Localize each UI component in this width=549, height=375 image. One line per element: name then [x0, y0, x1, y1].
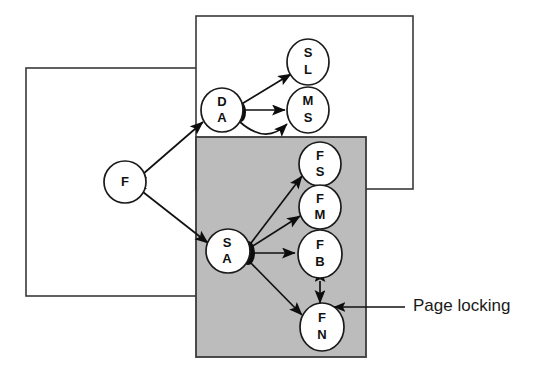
node-sa-label-line-2: A [222, 251, 232, 266]
node-sl-label-line-2: L [304, 62, 312, 77]
node-fb-label-line-2: B [315, 254, 324, 269]
node-fn-label-line-1: F [318, 310, 326, 325]
node-fm-label-line-2: M [315, 207, 326, 222]
layered-architecture-diagram: F D A S L M S S A F S F [0, 0, 549, 375]
node-sa[interactable]: S A [206, 229, 250, 273]
node-sl-label-line-1: S [304, 45, 313, 60]
diagram-canvas: F D A S L M S S A F S F [0, 0, 549, 375]
node-sl[interactable]: S L [287, 39, 329, 85]
node-fn-label-line-2: N [317, 327, 326, 342]
page-locking-label: Page locking [413, 296, 510, 315]
node-ms[interactable]: M S [287, 87, 329, 133]
node-f[interactable]: F [104, 161, 146, 203]
node-da-label-line-2: A [217, 110, 227, 125]
node-fs[interactable]: F S [299, 142, 341, 186]
node-fm-label-line-1: F [316, 191, 324, 206]
node-da-label-line-1: D [217, 94, 226, 109]
node-fb[interactable]: F B [298, 230, 342, 278]
node-f-label-line-1: F [121, 174, 129, 189]
node-da[interactable]: D A [201, 88, 243, 132]
node-fs-label-line-1: F [316, 148, 324, 163]
node-fb-label-line-1: F [316, 237, 324, 252]
node-sa-label-line-1: S [223, 235, 232, 250]
node-fm[interactable]: F M [299, 185, 341, 229]
node-fs-label-line-2: S [316, 164, 325, 179]
node-ms-label-line-1: M [303, 93, 314, 108]
node-ms-label-line-2: S [304, 110, 313, 125]
node-fn[interactable]: F N [300, 303, 344, 351]
